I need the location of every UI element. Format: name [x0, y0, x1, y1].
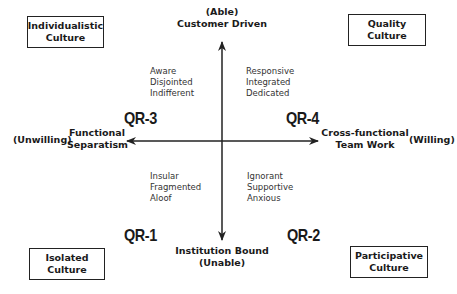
culture-label-line1: Quality — [367, 18, 406, 30]
qr2-traits: Ignorant Supportive Anxious — [247, 171, 293, 204]
trait: Supportive — [247, 182, 293, 193]
quality-culture-box: Quality Culture — [348, 14, 426, 46]
top-axis-label: (Able) Customer Driven — [172, 6, 272, 30]
right-axis-label: Cross-functional Team Work — [320, 127, 410, 151]
top-axis-qualifier: (Able) — [172, 6, 272, 18]
culture-label-line2: Culture — [355, 262, 423, 274]
trait: Indifferent — [150, 88, 194, 99]
bottom-axis-qualifier: (Unable) — [167, 257, 277, 269]
bottom-axis-label: Institution Bound (Unable) — [167, 245, 277, 269]
participative-culture-box: Participative Culture — [350, 246, 428, 278]
qr2-label: QR-2 — [287, 227, 320, 245]
left-axis-title-line1: Functional — [67, 127, 128, 139]
culture-label-line2: Culture — [367, 30, 406, 42]
trait: Aware — [150, 66, 194, 77]
culture-label-line2: Culture — [28, 32, 103, 44]
right-axis-title-line1: Cross-functional — [320, 127, 410, 139]
qr4-label: QR-4 — [286, 110, 319, 128]
trait: Disjointed — [150, 77, 194, 88]
qr1-label: QR-1 — [124, 227, 157, 245]
trait: Responsive — [246, 66, 294, 77]
qr4-traits: Responsive Integrated Dedicated — [246, 66, 294, 99]
trait: Fragmented — [150, 182, 201, 193]
trait: Integrated — [246, 77, 294, 88]
isolated-culture-box: Isolated Culture — [29, 248, 105, 280]
qr1-traits: Insular Fragmented Aloof — [150, 171, 201, 204]
right-axis-title-line2: Team Work — [320, 139, 410, 151]
culture-label-line1: Isolated — [45, 252, 88, 264]
trait: Anxious — [247, 193, 293, 204]
qr3-label: QR-3 — [124, 110, 157, 128]
trait: Dedicated — [246, 88, 294, 99]
trait: Ignorant — [247, 171, 293, 182]
right-axis-qualifier: (Willing) — [409, 134, 455, 146]
left-axis-qualifier: (Unwilling) — [13, 134, 72, 146]
left-axis-label: Functional Separatism — [67, 127, 128, 151]
culture-label-line1: Individualistic — [28, 20, 103, 32]
left-axis-title-line2: Separatism — [67, 139, 128, 151]
bottom-axis-title: Institution Bound — [167, 245, 277, 257]
top-axis-title: Customer Driven — [172, 18, 272, 30]
trait: Aloof — [150, 193, 201, 204]
individualistic-culture-box: Individualistic Culture — [27, 16, 104, 48]
culture-label-line2: Culture — [45, 264, 88, 276]
trait: Insular — [150, 171, 201, 182]
qr3-traits: Aware Disjointed Indifferent — [150, 66, 194, 99]
culture-label-line1: Participative — [355, 250, 423, 262]
